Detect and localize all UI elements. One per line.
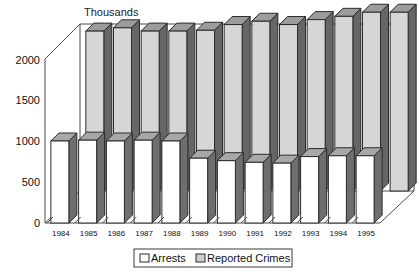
bar-arrests-1995-side xyxy=(374,148,382,223)
bar-arrests-1988-side xyxy=(180,133,188,223)
frame-diagonal-top xyxy=(45,24,80,59)
bar-arrests-1990-side xyxy=(235,153,243,223)
chart-unit-title: Thousands xyxy=(84,6,139,18)
bar-arrests-1987-side xyxy=(152,132,160,223)
y-tick-500: 500 xyxy=(22,176,40,188)
bar-arrests-1992-front[interactable] xyxy=(273,163,291,223)
bar-arrests-1989-side xyxy=(208,150,216,223)
bar-arrests-1993-front[interactable] xyxy=(301,157,319,223)
x-label-1990: 1990 xyxy=(218,229,236,238)
white-swatch-icon xyxy=(140,254,149,262)
bar-arrests-1991-side xyxy=(263,154,271,223)
bar-arrests-1986-front[interactable] xyxy=(106,141,124,223)
bar-arrests-1993-side xyxy=(319,149,327,223)
frame-diagonal-bottom-right xyxy=(380,191,414,223)
x-label-1994: 1994 xyxy=(329,229,347,238)
x-label-1986: 1986 xyxy=(107,229,125,238)
y-tick-0: 0 xyxy=(34,217,40,229)
bar-arrests-1992-side xyxy=(291,155,299,223)
chart-legend[interactable]: Arrests Reported Crimes xyxy=(134,249,292,267)
x-label-1987: 1987 xyxy=(135,229,153,238)
y-axis-ticks: 2000 1500 1000 500 0 xyxy=(16,54,40,229)
chart-container: 2000 1500 1000 500 0 Thousands 198419851… xyxy=(0,0,419,274)
bar-arrests-1995-front[interactable] xyxy=(356,156,374,223)
x-label-1989: 1989 xyxy=(191,229,209,238)
bar-arrests-1994-side xyxy=(346,148,354,223)
x-label-1984: 1984 xyxy=(52,229,70,238)
bar-arrests-1990-front[interactable] xyxy=(217,161,235,223)
x-label-1995: 1995 xyxy=(357,229,375,238)
bar-arrests-1989-front[interactable] xyxy=(190,158,208,223)
bar-arrests-1984-front[interactable] xyxy=(51,141,69,223)
bar-arrests-1986-side xyxy=(124,133,132,223)
y-tick-1000: 1000 xyxy=(16,135,40,147)
y-tick-1500: 1500 xyxy=(16,94,40,106)
bar-arrests-1994-front[interactable] xyxy=(328,156,346,223)
gray-swatch-icon xyxy=(196,254,205,262)
bar-arrests-1985-side xyxy=(97,132,105,223)
bar-reported-crimes-1995-front[interactable] xyxy=(390,12,408,191)
bar-arrests-1985-front[interactable] xyxy=(79,140,97,223)
bar-reported-crimes-1995-side xyxy=(408,4,416,191)
bar-arrests-1987-front[interactable] xyxy=(134,140,152,223)
legend-label-reported-crimes: Reported Crimes xyxy=(207,252,291,264)
bar-chart-3d: 2000 1500 1000 500 0 Thousands 198419851… xyxy=(0,0,419,274)
x-label-1993: 1993 xyxy=(302,229,320,238)
bar-arrests-1991-front[interactable] xyxy=(245,162,263,223)
bar-arrests-1988-front[interactable] xyxy=(162,141,180,223)
bar-arrests-1984-side xyxy=(69,133,77,223)
x-label-1988: 1988 xyxy=(163,229,181,238)
x-label-1985: 1985 xyxy=(80,229,98,238)
legend-label-arrests: Arrests xyxy=(151,252,186,264)
y-tick-2000: 2000 xyxy=(16,54,40,66)
x-label-1992: 1992 xyxy=(274,229,292,238)
x-label-1991: 1991 xyxy=(246,229,264,238)
